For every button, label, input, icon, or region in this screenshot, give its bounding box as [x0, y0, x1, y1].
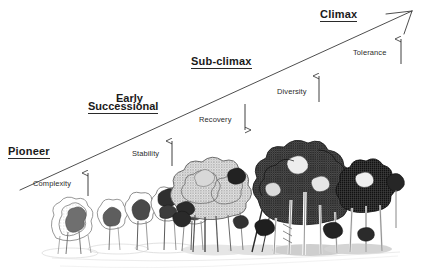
climax-vegetation	[252, 140, 404, 255]
ground-shadows	[42, 243, 400, 268]
diagram-canvas	[0, 0, 421, 270]
pioneer-vegetation	[51, 197, 127, 254]
subclimax-vegetation	[170, 157, 251, 252]
succession-diagram: Pioneer Early Successional Sub-climax Cl…	[0, 0, 421, 270]
